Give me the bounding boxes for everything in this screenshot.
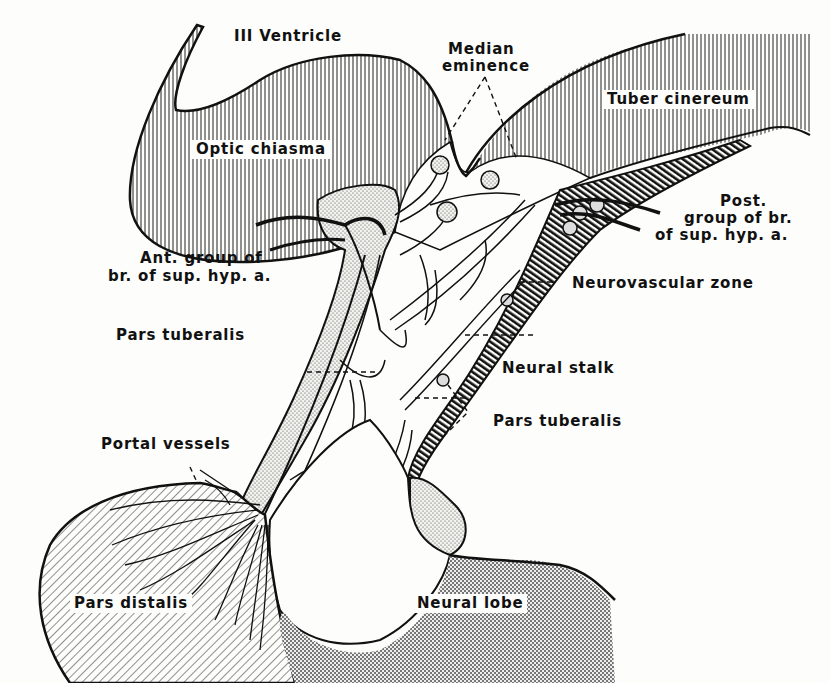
- label-pars-tuberalis-right: Pars tuberalis: [493, 413, 622, 430]
- label-third-ventricle: III Ventricle: [234, 28, 342, 45]
- label-pars-distalis: Pars distalis: [70, 594, 192, 613]
- label-pars-tuberalis-left: Pars tuberalis: [116, 327, 245, 344]
- label-median-eminence-line2: eminence: [442, 58, 530, 75]
- label-ant-group-line1: Ant. group of: [140, 250, 263, 267]
- label-post-group-line2: group of br.: [684, 210, 792, 227]
- label-neural-lobe: Neural lobe: [413, 594, 527, 613]
- vessel-circle: [437, 374, 449, 386]
- pars-distalis-region: [40, 483, 295, 683]
- label-neural-stalk: Neural stalk: [502, 360, 614, 377]
- anatomical-diagram: III Ventricle Median eminence Tuber cine…: [0, 0, 830, 683]
- label-post-group-line3: of sup. hyp. a.: [655, 227, 788, 244]
- label-optic-chiasma: Optic chiasma: [192, 140, 330, 159]
- label-portal-vessels: Portal vessels: [101, 436, 231, 453]
- label-post-group-line1: Post.: [720, 193, 767, 210]
- label-median-eminence-line1: Median: [448, 41, 515, 58]
- label-ant-group-line2: br. of sup. hyp. a.: [108, 268, 271, 285]
- vessel-circle: [563, 221, 577, 235]
- label-neurovascular-zone: Neurovascular zone: [572, 275, 754, 292]
- label-tuber-cinereum: Tuber cinereum: [603, 90, 754, 109]
